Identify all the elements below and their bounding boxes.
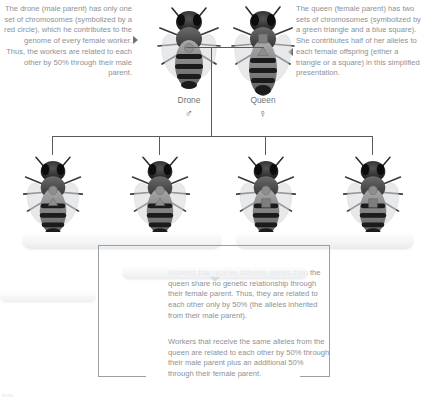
label-drone: Drone bbox=[149, 95, 229, 105]
shelf-right bbox=[236, 232, 414, 249]
bracket1-arm-left bbox=[98, 245, 212, 246]
bee-worker-1 bbox=[18, 150, 88, 242]
bracket2-arm-left bbox=[98, 376, 146, 377]
note-same-alleles-text: Workers that receive the same alleles fr… bbox=[168, 337, 330, 380]
label-queen: Queen bbox=[223, 95, 303, 105]
note-drone-text: The drone (male parent) has only one set… bbox=[4, 4, 132, 79]
bee-worker-3 bbox=[231, 150, 301, 242]
bracket2-arm-right bbox=[300, 376, 330, 377]
pointer-down-icon bbox=[210, 277, 220, 282]
figure-caption: tion bbox=[2, 392, 152, 398]
shelf-left bbox=[22, 232, 222, 249]
bee-worker-2 bbox=[125, 150, 195, 242]
bee-queen bbox=[226, 2, 300, 102]
parent-descent-line bbox=[211, 47, 212, 136]
parent-mating-line bbox=[186, 47, 264, 48]
allele-circle-icon bbox=[49, 186, 58, 195]
bracket1-left-stem bbox=[98, 245, 99, 376]
allele-square-icon bbox=[259, 34, 268, 43]
pointer-right-icon bbox=[133, 36, 138, 44]
allele-circle-icon bbox=[156, 186, 165, 195]
allele-circle-icon bbox=[184, 43, 193, 52]
offspring-bus-line bbox=[52, 136, 372, 137]
allele-square-icon bbox=[369, 199, 378, 208]
note-queen-text: The queen (female parent) has two sets o… bbox=[296, 4, 422, 79]
bee-worker-4 bbox=[338, 150, 408, 242]
female-sex-icon: ♀ bbox=[223, 107, 303, 119]
bracket1-arm-right bbox=[212, 245, 330, 246]
allele-circle-icon bbox=[369, 186, 378, 195]
allele-square-icon bbox=[262, 199, 271, 208]
figure-canvas: The drone (male parent) has only one set… bbox=[0, 0, 424, 404]
allele-circle-icon bbox=[262, 186, 271, 195]
bee-drone bbox=[152, 2, 226, 94]
shelf-far-left bbox=[0, 290, 96, 302]
male-sex-icon: ♂ bbox=[149, 107, 229, 119]
bracket1-right-stem bbox=[329, 245, 330, 376]
